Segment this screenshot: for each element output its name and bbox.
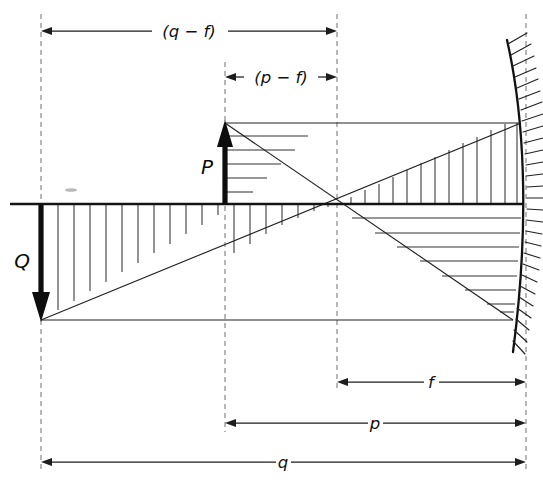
dimension-q-minus-f: (q − f)	[41, 22, 337, 41]
force-P-head	[217, 120, 233, 147]
force-P-label: P	[201, 155, 214, 179]
dim-q-minus-f-arrow-right	[326, 27, 337, 35]
dim-f-arrow-right	[515, 378, 526, 386]
dim-p-minus-f-arrow-left	[225, 73, 236, 81]
dimension-p: p	[225, 414, 526, 433]
dim-p-arrow-left	[225, 419, 236, 427]
dim-q-arrow-right	[515, 458, 526, 466]
dimension-q: q	[41, 453, 526, 472]
scan-speck	[65, 188, 77, 191]
optics-force-diagram: P Q (q − f) (p − f)	[0, 0, 543, 493]
ascending-diagonal	[41, 123, 521, 320]
dim-p-label: p	[369, 414, 380, 433]
force-Q-label: Q	[14, 249, 30, 273]
dim-p-minus-f-label: (p − f)	[254, 68, 307, 87]
hatch-lower-right-horizontal	[352, 218, 521, 312]
force-arrow-Q: Q	[14, 205, 50, 322]
dimension-f: f	[337, 373, 526, 392]
hatch-upper-left-horizontal	[225, 136, 308, 192]
force-distribution-outlines	[41, 123, 521, 320]
concave-mirror	[507, 33, 543, 354]
dim-q-label: q	[278, 453, 288, 472]
descending-diagonal	[225, 123, 513, 320]
dim-q-minus-f-arrow-left	[41, 27, 52, 35]
dim-p-minus-f-arrow-right	[326, 73, 337, 81]
diagram-root: P Q (q − f) (p − f)	[0, 0, 543, 493]
dim-p-arrow-right	[515, 419, 526, 427]
dim-f-label: f	[428, 373, 436, 392]
dim-f-arrow-left	[337, 378, 348, 386]
dim-q-arrow-left	[41, 458, 52, 466]
dim-q-minus-f-label: (q − f)	[162, 22, 215, 41]
dimension-p-minus-f: (p − f)	[225, 68, 337, 87]
